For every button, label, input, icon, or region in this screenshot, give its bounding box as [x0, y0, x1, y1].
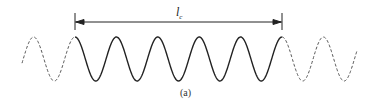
- dashed-wave-left: [22, 37, 75, 81]
- figure-caption: (a): [180, 87, 191, 98]
- dimension-label-subscript: c: [179, 13, 182, 21]
- right-arrowhead-icon: [273, 20, 281, 25]
- left-arrowhead-icon: [76, 20, 84, 25]
- solid-wave: [75, 37, 282, 81]
- dimension-label: lc: [176, 5, 182, 21]
- dashed-wave-right: [282, 37, 357, 81]
